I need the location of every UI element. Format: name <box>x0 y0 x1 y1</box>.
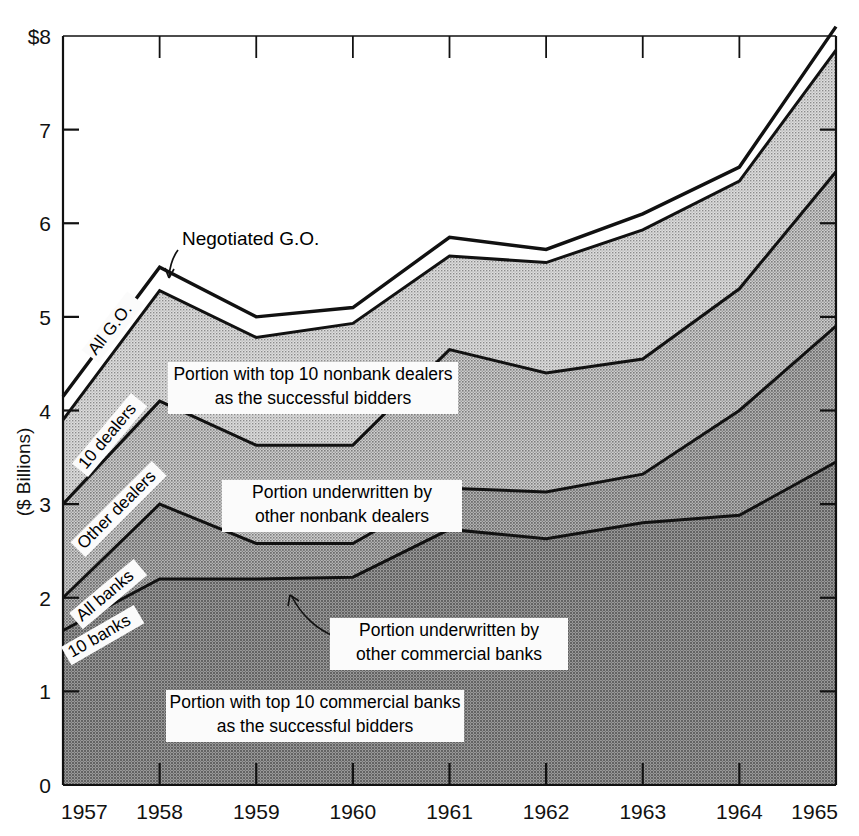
y-tick-label: 7 <box>39 119 51 142</box>
y-tick-label: 3 <box>39 493 51 516</box>
y-tick-label: 2 <box>39 587 51 610</box>
callout-top10-nonbank-line2: as the successful bidders <box>215 388 412 408</box>
y-tick-label: 5 <box>39 306 51 329</box>
callout-top10-commercial-line2: as the successful bidders <box>217 716 414 736</box>
callout-top10-commercial-line1: Portion with top 10 commercial banks <box>170 692 461 712</box>
callout-top10-commercial: Portion with top 10 commercial banks as … <box>166 690 464 742</box>
y-tick-label: $8 <box>28 25 51 48</box>
x-tick-label: 1957 <box>61 800 108 823</box>
callout-other-nonbank-line2: other nonbank dealers <box>255 506 429 526</box>
callout-other-nonbank-line1: Portion underwritten by <box>252 482 432 502</box>
chart-figure: 01234567$8 19571958195919601961196219631… <box>0 0 859 836</box>
callout-other-commercial-line1: Portion underwritten by <box>359 620 539 640</box>
x-axis-tick-labels: 195719581959196019611962196319641965 <box>61 800 838 823</box>
annotation-negotiated-go-text: Negotiated G.O. <box>182 228 319 249</box>
y-tick-label: 6 <box>39 212 51 235</box>
y-tick-label: 0 <box>39 774 51 797</box>
x-tick-label: 1965 <box>791 800 838 823</box>
y-tick-label: 1 <box>39 680 51 703</box>
y-axis-title: ($ Billions) <box>13 428 34 517</box>
x-tick-label: 1962 <box>523 800 570 823</box>
callout-other-commercial-line2: other commercial banks <box>356 644 542 664</box>
x-tick-label: 1960 <box>330 800 377 823</box>
y-axis-tick-labels: 01234567$8 <box>28 25 52 797</box>
area-chart-canvas: 01234567$8 19571958195919601961196219631… <box>0 0 859 836</box>
x-tick-label: 1963 <box>619 800 666 823</box>
x-tick-label: 1964 <box>716 800 763 823</box>
x-tick-label: 1959 <box>233 800 280 823</box>
x-tick-label: 1961 <box>426 800 473 823</box>
callout-top10-nonbank: Portion with top 10 nonbank dealers as t… <box>168 362 458 414</box>
y-tick-label: 4 <box>39 400 51 423</box>
x-tick-label: 1958 <box>136 800 183 823</box>
callout-top10-nonbank-line1: Portion with top 10 nonbank dealers <box>173 364 452 384</box>
callout-other-nonbank: Portion underwritten by other nonbank de… <box>222 480 462 532</box>
